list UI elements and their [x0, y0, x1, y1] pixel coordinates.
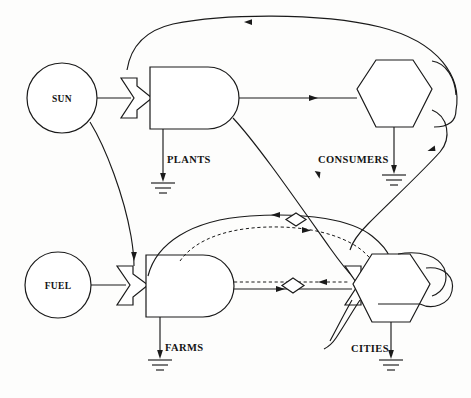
- flow-plants-to-consumers: [239, 95, 357, 101]
- arrow-head-plants-consumers: [309, 95, 318, 101]
- arrow-head-plants-cities: [313, 169, 323, 179]
- transaction-diamond-lower: [282, 278, 304, 293]
- farms-producer-shape: [146, 255, 234, 317]
- arrow-head-plants-sink: [160, 173, 166, 182]
- arrow-head-consumers-down: [427, 144, 437, 155]
- transaction-lower: [234, 278, 352, 293]
- plants-caption: PLANTS: [167, 154, 211, 165]
- node-plants: [150, 67, 239, 129]
- node-farms: [146, 255, 234, 317]
- fuel-label: FUEL: [45, 281, 72, 291]
- arrow-head-lower-money-left: [318, 279, 327, 285]
- arrow-head-consumers-sink: [391, 165, 397, 174]
- arrow-head-upper-goods-left: [271, 212, 280, 218]
- arrow-head-top-feedback: [244, 19, 252, 25]
- cities-lower-return: [324, 300, 360, 349]
- plants-producer-shape: [150, 67, 239, 129]
- arrow-head-sun-farms: [131, 252, 137, 261]
- arrow-head-farms-sink: [157, 350, 163, 359]
- energy-systems-diagram: SUN PLANTS CONSUM: [0, 0, 471, 398]
- arrow-head-upper-money-right: [302, 227, 311, 233]
- arrow-head-cities-sink: [388, 350, 394, 359]
- flow-plants-to-cities: [233, 118, 354, 278]
- node-sun: SUN: [27, 63, 97, 133]
- feedback-arc-right-tail: [432, 61, 456, 127]
- consumers-caption: CONSUMERS: [318, 154, 389, 165]
- consumers-hexagon: [357, 60, 432, 127]
- node-fuel: FUEL: [25, 252, 91, 318]
- node-consumers: CONSUMERS: [318, 60, 432, 165]
- cities-caption: CITIES: [351, 343, 389, 354]
- sun-label: SUN: [52, 94, 72, 104]
- flow-sun-to-farms: [90, 122, 137, 266]
- diagram-canvas: SUN PLANTS CONSUM: [0, 0, 471, 398]
- cities-hexagon: [353, 254, 430, 322]
- farms-caption: FARMS: [165, 342, 204, 353]
